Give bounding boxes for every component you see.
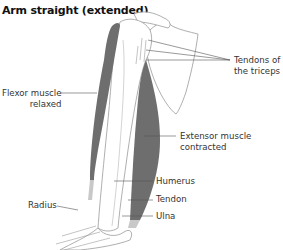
label-flexor-muscle: Flexor muscle relaxed bbox=[2, 88, 62, 110]
label-tendons-of-triceps: Tendons of the triceps bbox=[234, 55, 280, 77]
label-tendon: Tendon bbox=[156, 194, 187, 205]
label-ulna: Ulna bbox=[156, 211, 175, 222]
ulna-radius bbox=[60, 228, 132, 250]
label-humerus: Humerus bbox=[156, 176, 195, 187]
label-extensor-muscle: Extensor muscle contracted bbox=[180, 131, 251, 153]
label-radius: Radius bbox=[28, 200, 57, 211]
arm-anatomy-illustration bbox=[0, 0, 283, 250]
